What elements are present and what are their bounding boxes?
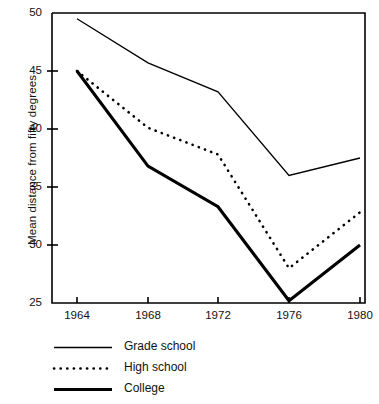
series-line-high-school <box>77 71 360 268</box>
legend-item-high-school: High school <box>52 358 352 379</box>
legend-label-grade-school: Grade school <box>124 339 195 353</box>
legend-label-high-school: High school <box>124 360 187 374</box>
legend-swatch-dotted-icon <box>52 358 114 379</box>
x-tick-marks <box>77 297 360 303</box>
legend-item-college: College <box>52 379 352 400</box>
series-line-grade-school <box>77 19 360 176</box>
chart-legend: Grade school High school College <box>52 337 352 400</box>
legend-item-grade-school: Grade school <box>52 337 352 358</box>
legend-swatch-thin-solid-icon <box>52 337 114 358</box>
axis-frame <box>52 13 365 303</box>
legend-swatch-thick-solid-icon <box>52 379 114 400</box>
legend-label-college: College <box>124 381 165 395</box>
series-line-college <box>77 71 360 301</box>
chart-figure: Mean distance from fifty degrees 50 45 4… <box>0 0 379 404</box>
